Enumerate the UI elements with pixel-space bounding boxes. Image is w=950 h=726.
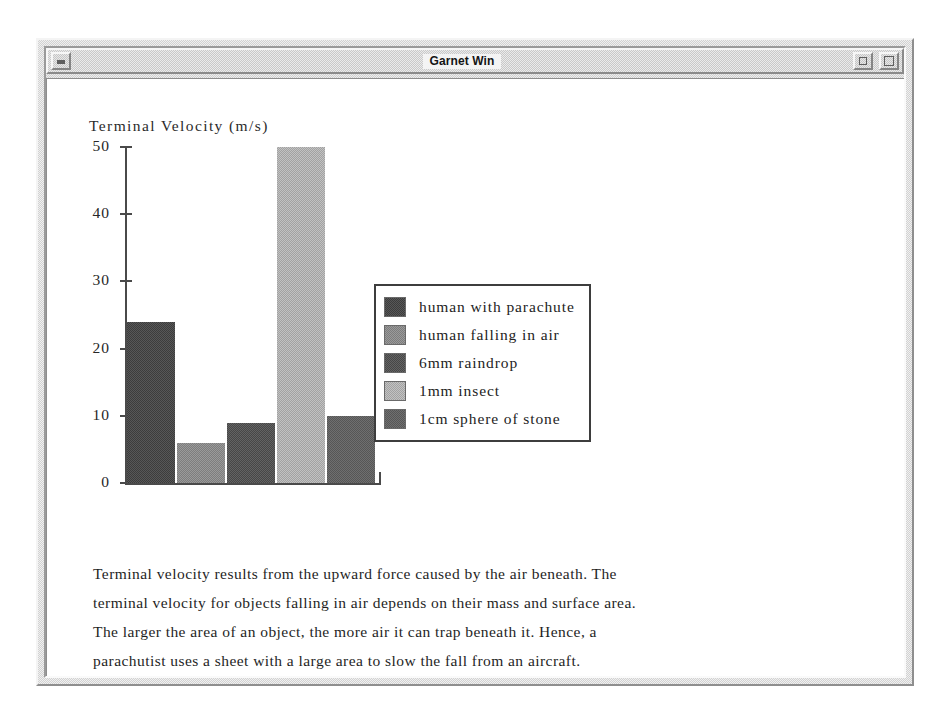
chart-legend: human with parachutehuman falling in air… [374, 284, 591, 442]
application-window: Garnet Win Terminal Velocity (m/s) [36, 38, 914, 686]
paragraph-line: parachutist uses a sheet with a large ar… [93, 646, 864, 675]
legend-swatch [384, 297, 406, 317]
legend-swatch [384, 409, 406, 429]
description-paragraph: Terminal velocity results from the upwar… [93, 559, 864, 675]
legend-swatch [384, 325, 406, 345]
bar [277, 147, 325, 483]
bar [227, 423, 275, 483]
legend-item: 1cm sphere of stone [384, 405, 575, 433]
legend-swatch [384, 353, 406, 373]
y-axis-title: Terminal Velocity (m/s) [89, 117, 269, 135]
restore-button[interactable] [853, 52, 873, 70]
y-axis-tick-label: 10 [93, 405, 111, 423]
y-axis-tick-label: 30 [93, 271, 111, 289]
y-axis-tick-label: 40 [93, 204, 111, 222]
x-axis-line [125, 483, 381, 485]
minimize-icon [57, 60, 65, 64]
legend-label: 1cm sphere of stone [419, 410, 561, 428]
legend-label: 6mm raindrop [419, 354, 518, 372]
window-title: Garnet Win [423, 54, 502, 69]
paragraph-line: terminal velocity for objects falling in… [93, 588, 864, 617]
legend-swatch [384, 381, 406, 401]
window-client-area: Terminal Velocity (m/s) 01020304050 huma… [46, 78, 904, 676]
paragraph-line: Terminal velocity results from the upwar… [93, 559, 864, 588]
legend-item: human with parachute [384, 293, 575, 321]
restore-icon [859, 57, 867, 65]
paragraph-line: The larger the area of an object, the mo… [93, 617, 864, 646]
legend-label: 1mm insect [419, 382, 500, 400]
bar-chart: Terminal Velocity (m/s) 01020304050 huma… [47, 79, 904, 549]
y-axis-tick-label: 50 [93, 137, 111, 155]
title-bar-buttons [850, 52, 902, 70]
title-text-container: Garnet Win [74, 50, 850, 72]
y-axis-tick-label: 0 [101, 473, 110, 491]
maximize-button[interactable] [879, 52, 899, 70]
y-axis-tick-label: 20 [93, 338, 111, 356]
y-axis-tick: 50 [120, 146, 132, 148]
plot-area: 01020304050 [125, 147, 375, 483]
bar [177, 443, 225, 483]
title-bar[interactable]: Garnet Win [46, 48, 904, 74]
legend-label: human with parachute [419, 298, 575, 316]
bar [327, 416, 375, 483]
y-axis-tick: 30 [120, 280, 132, 282]
y-axis-tick: 40 [120, 213, 132, 215]
legend-label: human falling in air [419, 326, 560, 344]
maximize-icon [884, 56, 894, 66]
legend-item: 6mm raindrop [384, 349, 575, 377]
legend-item: human falling in air [384, 321, 575, 349]
bar [127, 322, 175, 483]
desktop-background: Garnet Win Terminal Velocity (m/s) [0, 0, 950, 726]
window-menu-button[interactable] [51, 52, 71, 70]
x-axis-end-tick [379, 472, 381, 485]
legend-item: 1mm insect [384, 377, 575, 405]
